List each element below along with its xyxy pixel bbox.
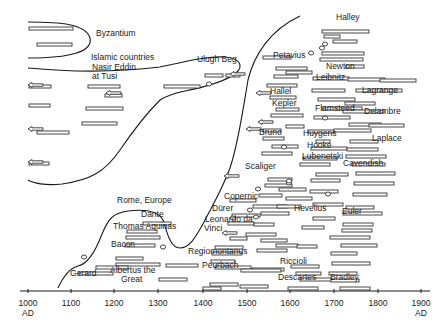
lifespan-bar	[342, 229, 372, 232]
name-label: Dante	[141, 210, 164, 219]
axis-tick-label: 1900AD	[406, 298, 436, 318]
name-label: Riccioli	[280, 257, 307, 266]
circle-marker	[81, 255, 86, 259]
name-label: Flamsteed	[315, 104, 355, 113]
name-label: Vinci	[204, 224, 222, 233]
left-arrow-icon	[256, 91, 271, 96]
circle-marker	[325, 192, 330, 196]
axis-tick-label: 1700	[319, 298, 349, 308]
lifespan-bar	[82, 122, 117, 125]
name-label: Regiomontanus	[188, 247, 248, 256]
lifespan-bar	[159, 278, 187, 281]
name-label: Byzantium	[96, 29, 136, 38]
name-label: Great	[121, 275, 142, 284]
name-label: Cavendish	[343, 159, 383, 168]
lifespan-bar	[205, 74, 223, 77]
lifespan-bar	[318, 98, 355, 101]
axis-tick-label: 1500	[232, 298, 262, 308]
axis-tick-label: 1600	[275, 298, 305, 308]
lifespan-bar	[343, 223, 373, 226]
lifespan-bar	[276, 244, 298, 247]
circle-marker	[308, 51, 313, 55]
left-arrow-icon	[258, 120, 273, 125]
lifespan-bar	[322, 52, 364, 55]
lifespan-bar	[347, 148, 378, 151]
lifespan-bar	[310, 190, 338, 193]
axis-tick-label: 1800	[363, 298, 393, 308]
axis-tick-label: 1000AD	[13, 298, 43, 318]
lifespan-bar	[262, 152, 292, 155]
lifespan-bar	[230, 237, 247, 240]
lifespan-bar	[166, 264, 198, 267]
lifespan-bar	[29, 104, 50, 107]
circle-marker	[247, 208, 252, 212]
name-label: Thomas Aquinas	[113, 222, 176, 231]
axis-tick-label: 1200	[99, 298, 129, 308]
lifespan-bar	[369, 124, 404, 127]
lifespan-bar	[203, 287, 221, 290]
name-label: Bradley	[330, 273, 359, 282]
name-label: Huygens	[303, 129, 337, 138]
lifespan-bar	[286, 197, 312, 200]
lifespan-bar	[88, 85, 120, 88]
lifespan-bar	[37, 43, 72, 46]
lifespan-bar	[276, 108, 299, 111]
lifespan-bar	[288, 287, 318, 290]
circle-marker	[286, 179, 291, 183]
lifespan-bar	[380, 79, 416, 82]
lifespan-bar	[37, 131, 69, 134]
lifespan-bar	[322, 30, 369, 33]
left-arrow-icon	[224, 174, 239, 179]
lifespan-bar	[241, 269, 281, 272]
name-label: Bacon	[111, 240, 135, 249]
lifespan-bar	[263, 137, 284, 140]
lifespan-bar	[210, 283, 238, 286]
name-label: Bruno	[259, 128, 282, 137]
name-label: Delambre	[364, 107, 401, 116]
circle-marker	[253, 215, 258, 219]
circle-marker	[322, 116, 327, 120]
lifespan-bar	[331, 252, 357, 255]
lifespan-bar	[316, 173, 348, 176]
lifespan-bar	[271, 114, 303, 117]
lifespan-bar	[311, 179, 340, 182]
lifespan-bar	[340, 287, 370, 290]
name-label: Islamic countries	[91, 53, 154, 62]
name-label: Ulugh Beg	[197, 55, 237, 64]
lifespan-bar	[332, 262, 370, 265]
lifespan-bar	[334, 129, 371, 132]
lifespan-bar	[286, 125, 304, 128]
name-label: Lubenetski	[302, 152, 343, 161]
lifespan-bar	[333, 40, 357, 43]
name-label: Euler	[342, 207, 362, 216]
lifespan-bar	[354, 182, 394, 185]
name-label: Copernic	[224, 192, 258, 201]
name-label: Laplace	[372, 134, 402, 143]
lifespan-bar	[246, 233, 276, 236]
lifespan-bar	[116, 257, 143, 260]
name-label: Lagrange	[362, 86, 398, 95]
axis-tick-label: 1400	[188, 298, 218, 308]
lifespan-bar	[314, 116, 350, 119]
lifespan-bar	[286, 71, 312, 74]
circle-marker	[206, 82, 211, 86]
circle-marker	[160, 245, 165, 249]
name-label: Descartes	[278, 273, 316, 282]
name-label: Leibnitz	[316, 73, 345, 82]
name-label: Dürer	[212, 204, 233, 213]
lifespan-bar	[279, 188, 306, 191]
circle-marker	[322, 42, 327, 46]
lifespan-bar	[356, 172, 395, 175]
name-label: Kepler	[272, 99, 297, 108]
name-label: Petavius	[273, 51, 306, 60]
name-label: Hooke	[307, 141, 332, 150]
lifespan-bar	[240, 285, 268, 288]
lifespan-bar	[86, 107, 123, 110]
lifespan-bar	[29, 27, 73, 30]
axis-tick-label: 1100	[56, 298, 86, 308]
lifespan-bar	[312, 89, 345, 92]
name-label: Gerard	[70, 269, 96, 278]
left-arrow-icon	[222, 231, 237, 236]
lifespan-bar	[257, 249, 287, 252]
lifespan-bar	[261, 239, 287, 242]
